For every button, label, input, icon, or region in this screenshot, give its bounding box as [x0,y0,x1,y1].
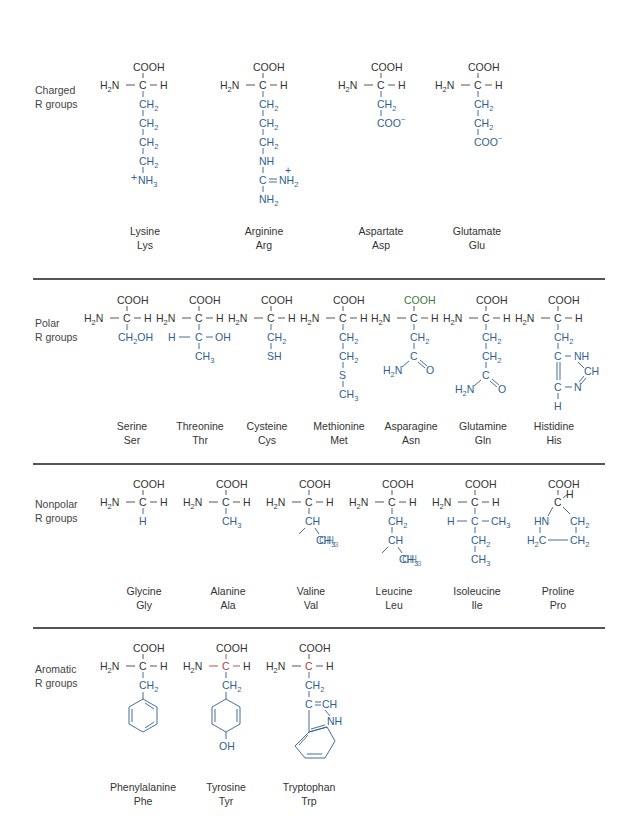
svg-text:CH3: CH3 [471,553,490,568]
svg-text:H2N: H2N [432,496,451,511]
svg-text:COOH: COOH [476,294,508,306]
svg-text:H: H [409,496,417,508]
svg-text:C: C [259,174,267,186]
svg-text:CH2OH: CH2OH [118,331,153,346]
svg-text:H2N: H2N [100,79,119,94]
svg-text:C: C [222,496,230,508]
svg-text:+: + [131,171,137,183]
svg-text:COOH: COOH [371,61,403,73]
svg-text:CH2: CH2 [139,136,158,151]
svg-text:C: C [305,660,313,672]
svg-text:H: H [447,515,455,527]
svg-text:C: C [554,350,562,362]
svg-text:C: C [554,496,562,508]
svg-text:H: H [398,79,406,91]
svg-text:CH: CH [584,365,599,377]
structure-aspartate: COOH H2N C H CH2 COO− [331,57,441,157]
svg-text:C: C [305,496,313,508]
svg-text:C: C [482,312,490,324]
name-isoleucine: Isoleucine Ile [432,584,522,612]
svg-text:O: O [498,383,506,395]
svg-text:CH: CH [388,534,403,546]
svg-text:COOH: COOH [189,294,221,306]
name-proline: Proline Pro [513,584,603,612]
svg-text:NH: NH [259,155,274,167]
svg-text:COOH: COOH [117,294,149,306]
svg-text:C: C [222,660,230,672]
svg-text:COOH: COOH [299,478,331,490]
svg-text:H2N: H2N [300,312,319,327]
svg-text:CH2: CH2 [570,515,589,530]
svg-text:NH3: NH3 [138,174,157,189]
svg-text:H2N: H2N [338,79,357,94]
svg-text:H: H [554,400,562,412]
structure-arginine: COOH H2N C H CH2 CH2 CH2 NH C NH2 + NH2 [213,57,323,217]
svg-text:HN: HN [534,515,549,527]
svg-text:COO−: COO− [377,115,406,129]
svg-text:H: H [492,496,500,508]
svg-text:CH2: CH2 [267,331,286,346]
name-tryptophan: Tryptophan Trp [264,780,354,808]
svg-text:CH2: CH2 [554,331,573,346]
svg-text:H: H [160,496,168,508]
svg-text:H2N: H2N [515,312,534,327]
name-valine: Valine Val [266,584,356,612]
svg-text:H: H [280,79,288,91]
svg-text:CH2: CH2 [139,155,158,170]
svg-text:CH2: CH2 [139,117,158,132]
svg-text:CH2: CH2 [305,679,324,694]
svg-text:CH3: CH3 [402,553,421,568]
svg-text:H2N: H2N [228,312,247,327]
svg-text:C: C [388,496,396,508]
svg-text:C: C [554,381,562,393]
svg-text:CH3: CH3 [195,350,214,365]
svg-text:H: H [243,660,251,672]
separator-nonpolar-aromatic [33,627,605,629]
name-aspartate: Aspartate Asp [336,224,426,252]
svg-text:CH2: CH2 [339,331,358,346]
svg-text:H2N: H2N [100,496,119,511]
svg-text:C: C [195,331,203,343]
svg-text:H2C: H2C [527,534,547,549]
svg-text:CH3: CH3 [222,515,241,530]
svg-text:COO−: COO− [474,134,503,148]
svg-text:H: H [495,79,503,91]
svg-text:CH: CH [305,515,320,527]
svg-text:CH2: CH2 [222,679,241,694]
svg-text:COOH: COOH [133,642,165,654]
svg-text:CH2: CH2 [259,136,278,151]
svg-text:CH3: CH3 [319,534,338,549]
svg-text:CH: CH [322,698,337,710]
svg-text:COOH: COOH [216,478,248,490]
structure-proline: COOH C H HN CH2 H2C CH2 [508,474,618,554]
svg-text:CH2: CH2 [259,98,278,113]
svg-text:C: C [377,79,385,91]
svg-text:COOH: COOH [333,294,365,306]
svg-text:COOH: COOH [216,642,248,654]
svg-text:H2N: H2N [100,660,119,675]
svg-text:O: O [426,364,434,376]
svg-text:H: H [326,496,334,508]
svg-text:CH2: CH2 [410,331,429,346]
svg-text:CH2: CH2 [259,117,278,132]
svg-text:C: C [482,369,490,381]
svg-text:C: C [554,312,562,324]
structure-lysine: COOH H2N C H CH2 CH2 CH2 CH2 + NH3 [93,57,203,197]
svg-text:COOH: COOH [465,478,497,490]
svg-text:C: C [139,496,147,508]
svg-text:H: H [326,660,334,672]
structure-tryptophan: COOH H2N C H CH2 C CH NH [259,638,369,778]
name-glycine: Glycine Gly [99,584,189,612]
svg-text:H: H [139,515,147,527]
svg-text:C: C [471,515,479,527]
svg-text:C: C [471,496,479,508]
svg-text:C: C [410,350,418,362]
svg-text:CH2: CH2 [471,534,490,549]
svg-text:CH2: CH2 [482,331,501,346]
svg-text:COOH: COOH [468,61,500,73]
svg-text:C: C [474,79,482,91]
svg-text:CH2: CH2 [570,534,589,549]
svg-text:C: C [410,312,418,324]
name-glutamate: Glutamate Glu [432,224,522,252]
svg-text:C: C [195,312,203,324]
